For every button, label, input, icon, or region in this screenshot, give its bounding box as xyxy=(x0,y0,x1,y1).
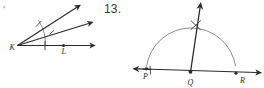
construction-arc-left xyxy=(39,21,46,47)
point-label-l: L xyxy=(61,47,67,56)
point-label-q: Q xyxy=(188,78,194,87)
figure-left-group: K L xyxy=(9,8,91,57)
line-pqr xyxy=(143,69,257,73)
point-label-r: R xyxy=(239,76,245,85)
geometry-figures-canvas: K L P Q R xyxy=(0,0,264,88)
point-dot-q xyxy=(189,70,193,74)
ray-k-middle-bisector xyxy=(18,24,89,46)
figure-right-group: P Q R xyxy=(138,8,257,87)
point-label-p: P xyxy=(142,72,148,81)
point-dot-p xyxy=(145,67,148,70)
figure-sheet: 13. K xyxy=(0,0,264,88)
stray-speck xyxy=(3,6,5,8)
point-dot-r xyxy=(234,72,237,75)
point-label-k: K xyxy=(9,43,16,52)
ray-q-perpendicular xyxy=(191,8,201,72)
tick-mark-near-p xyxy=(150,66,151,75)
ray-k-upper xyxy=(18,8,77,46)
semicircle-arc-right xyxy=(147,28,236,67)
